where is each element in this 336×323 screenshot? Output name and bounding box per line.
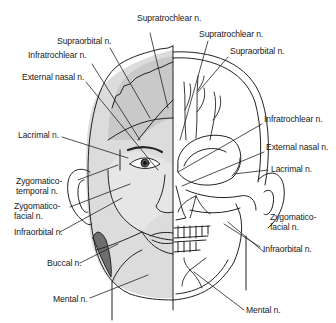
label-infraorbital-right: Infraorbital n.: [263, 244, 312, 254]
label-mental-right: Mental n.: [246, 305, 280, 315]
label-lacrimal-right: Lacrimal n.: [271, 164, 312, 174]
label-buccal-left: Buccal n.: [47, 258, 81, 268]
label-supratrochlear-right: Supratrochlear n.: [199, 29, 263, 39]
label-line1: Zygomatico-: [270, 212, 316, 222]
orbit-inner-right: [184, 148, 226, 166]
label-mental-left: Mental n.: [53, 294, 87, 304]
label-supraorbital-left: Supraorbital n.: [57, 36, 111, 46]
zygomatic-right: [186, 190, 256, 210]
label-infratrochlear-left: Infratrochlear n.: [28, 50, 87, 60]
label-line2: facial n.: [270, 222, 316, 232]
face-nerve-diagram: Supratrochlear n. Supraorbital n. Infrat…: [0, 0, 336, 323]
label-external-nasal-left: External nasal n.: [22, 72, 84, 82]
label-zygomaticofacial-left: Zygomatico- facial n.: [14, 201, 60, 221]
face-illustration: [0, 0, 336, 323]
label-supratrochlear-left: Supratrochlear n.: [137, 13, 201, 23]
label-zygomaticotemporal-left: Zygomatico- temporal n.: [16, 176, 62, 196]
label-supraorbital-right: Supraorbital n.: [230, 46, 284, 56]
label-infratrochlear-right: Infratrochlear n.: [264, 114, 323, 124]
label-line1: Zygomatico-: [16, 176, 62, 186]
label-external-nasal-right: External nasal n.: [266, 142, 328, 152]
label-zygomaticofacial-right: Zygomatico- facial n.: [270, 212, 316, 232]
label-lacrimal-left: Lacrimal n.: [18, 130, 59, 140]
cranium-inner: [173, 58, 261, 182]
label-infraorbital-left: Infraorbital n.: [14, 227, 63, 237]
lower-teeth: [174, 240, 206, 252]
label-line2: facial n.: [14, 211, 60, 221]
nerve-branches-right: [178, 76, 240, 288]
cranium-outer: [173, 52, 268, 185]
leader-lines-right: [178, 41, 268, 310]
label-line2: temporal n.: [16, 186, 62, 196]
label-line1: Zygomatico-: [14, 201, 60, 211]
upper-teeth: [174, 226, 210, 238]
